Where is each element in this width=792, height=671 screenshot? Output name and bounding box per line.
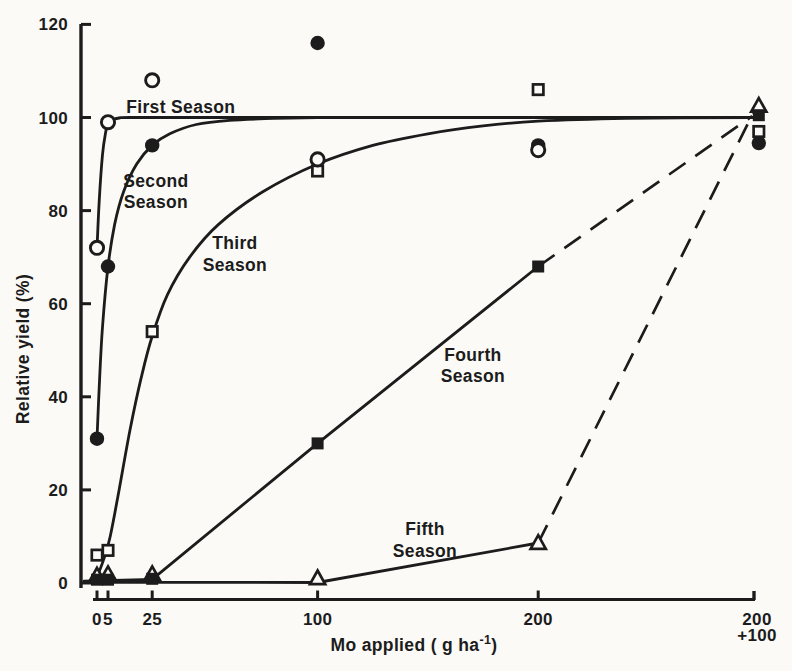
open-circle-marker — [532, 144, 545, 157]
fitted-curve — [84, 267, 538, 582]
series-markers-fourth-season — [91, 109, 765, 586]
dashed-segment — [538, 113, 753, 543]
filled-square-marker — [102, 574, 114, 586]
filled-circle-marker — [90, 432, 104, 446]
filled-circle-marker — [145, 138, 159, 152]
figure: 020406080100120Relative yield (%)0525100… — [0, 0, 792, 671]
open-triangle-marker — [310, 571, 325, 585]
filled-circle-marker — [752, 136, 766, 150]
open-square-marker — [103, 545, 113, 555]
series-line-first-season — [97, 117, 752, 247]
y-tick-label: 20 — [48, 481, 68, 500]
open-square-marker — [92, 550, 102, 560]
filled-circle-marker — [101, 259, 115, 273]
season-label: Season — [441, 366, 505, 386]
x-tick-label: 100 — [303, 610, 332, 629]
y-tick-label: 100 — [39, 109, 68, 128]
series-markers-third-season — [92, 84, 764, 560]
yield-vs-mo-chart: 020406080100120Relative yield (%)0525100… — [0, 0, 792, 671]
filled-square-marker — [312, 437, 324, 449]
open-circle-marker — [146, 74, 159, 87]
season-label: Fifth — [405, 519, 445, 539]
season-label: Third — [212, 233, 258, 253]
x-axis: 0525100200200+100Mo applied ( g ha-1) — [92, 591, 777, 656]
filled-square-marker — [532, 261, 544, 273]
season-label: Season — [203, 255, 267, 275]
filled-circle-marker — [310, 36, 324, 50]
y-tick-label: 0 — [58, 574, 68, 593]
season-label: Season — [124, 192, 188, 212]
x-tick-label: 0 — [92, 610, 102, 629]
filled-square-marker — [753, 109, 765, 121]
y-tick-label: 80 — [48, 202, 68, 221]
open-circle-marker — [90, 241, 103, 254]
filled-square-marker — [146, 573, 158, 585]
series-markers-fifth-season — [89, 98, 766, 584]
x-tick-label: 5 — [103, 610, 113, 629]
y-tick-label: 60 — [48, 295, 68, 314]
season-label: Season — [393, 541, 457, 561]
x-tick-label: +100 — [737, 626, 777, 645]
open-square-marker — [533, 84, 543, 94]
dashed-segment — [538, 116, 752, 266]
y-axis-title: Relative yield (%) — [13, 274, 33, 424]
y-axis: 020406080100120Relative yield (%) — [13, 15, 91, 593]
x-tick-label: 200 — [524, 610, 553, 629]
x-axis-title: Mo applied ( g ha-1) — [331, 633, 498, 655]
open-circle-marker — [311, 153, 324, 166]
season-label: Second — [123, 171, 188, 191]
season-label: First Season — [126, 97, 235, 117]
season-label: Fourth — [444, 345, 502, 365]
open-square-marker — [754, 126, 764, 136]
open-square-marker — [147, 326, 157, 336]
x-tick-label: 25 — [142, 610, 162, 629]
series-line-second-season — [97, 118, 318, 439]
fitted-curve — [97, 117, 752, 247]
open-circle-marker — [101, 116, 114, 129]
open-triangle-marker — [531, 535, 546, 549]
y-tick-label: 40 — [48, 388, 68, 407]
fitted-curve — [97, 118, 318, 439]
filled-square-marker — [91, 574, 103, 586]
y-tick-label: 120 — [39, 15, 68, 34]
